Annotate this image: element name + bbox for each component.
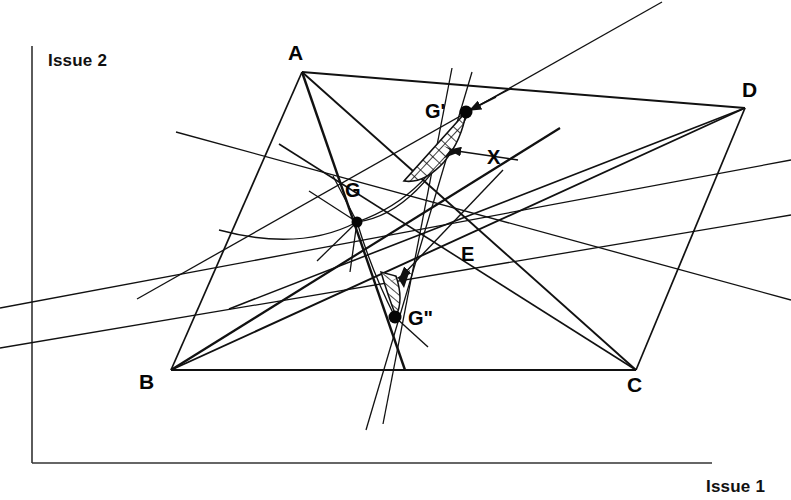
aux-ray-g-downleft [317,222,357,261]
point-label-g: G [345,179,361,201]
cross-hatched-lens-near-gprime [404,112,466,181]
vertex-label-c: C [627,373,642,396]
point-label-gdoubleprime: G" [408,307,433,329]
point-label-e: E [461,243,474,265]
diagram-canvas: Issue 2 Issue 1 A B C D G G' G" E X [0,0,791,500]
x-pointer-lower-arrow [400,170,503,278]
indifference-arc-left-of-g [219,222,357,239]
gprime-pointer-arrow [470,97,496,110]
diagonal-B-D [171,108,745,370]
edge-A-D [302,72,745,108]
vertex-label-a: A [288,41,303,64]
point-label-gprime: G' [425,100,445,122]
indifference-arc-lens-outer [357,112,466,222]
edge-C-D [636,108,745,370]
geometry-figure: Issue 2 Issue 1 A B C D G G' G" E X [0,0,791,500]
vertex-label-d: D [742,78,757,101]
dot-G [352,217,363,228]
edge-A-B [171,72,302,370]
auxiliary-line-group [0,2,791,430]
aux-line-upperleft-to-rightedge [176,132,791,300]
label-group: Issue 2 Issue 1 A B C D G G' G" E X [48,41,765,496]
x-axis-label: Issue 1 [706,477,765,496]
x-pointer-upper-arrow [450,150,518,160]
axis-group [32,46,712,463]
aux-line-lowerleft-to-topright [137,2,662,299]
cevian-D-through-G [229,108,745,309]
point-label-x: X [487,146,501,168]
dot-Gdoubleprime [389,311,402,324]
y-axis-label: Issue 2 [48,51,107,70]
dot-Gprime [460,106,473,119]
cevian-C-through-G [279,144,636,370]
vertex-label-b: B [139,370,154,393]
